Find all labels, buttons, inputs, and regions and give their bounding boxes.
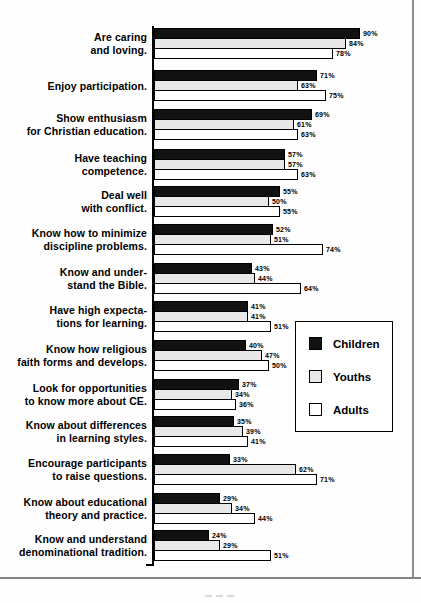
adults-swatch [309,403,322,416]
bar-value-label: 52% [276,226,291,233]
bar-row-adults: 44% [154,513,273,524]
bar-value-label: 29% [223,542,238,549]
bar-value-label: 61% [297,121,312,128]
bar-value-label: 36% [239,401,254,408]
category-label: Enjoy participation. [0,79,147,92]
axis-bottom-tick [146,564,154,566]
bar-group: Are caringand loving.90%84%78% [0,28,410,59]
bar-value-label: 29% [223,495,238,502]
category-label: Look for opportunitiesto know more about… [0,382,147,408]
bar-adults [154,513,255,524]
bar-value-label: 37% [242,381,257,388]
bar-group: Show enthusiasmfor Christian education.6… [0,109,410,140]
legend-label-youths: Youths [333,371,371,383]
bar-adults [154,436,248,447]
category-label: Have high expecta-tions for learning. [0,304,147,330]
bar-value-label: 34% [235,505,250,512]
bar-value-label: 34% [235,391,250,398]
bar-adults [154,550,271,561]
children-swatch [309,337,322,350]
page-edge-bottom [0,577,421,579]
legend-entry-adults: Adults [309,403,392,416]
bar-value-label: 63% [301,171,316,178]
bar-row-adults: 51% [154,550,289,561]
category-label: Deal wellwith conflict. [0,189,147,215]
bar-row-adults: 50% [154,360,287,371]
bar-value-label: 90% [363,30,378,37]
scanned-page: Are caringand loving.90%84%78%Enjoy part… [0,0,421,603]
bar-value-label: 63% [301,82,316,89]
category-label: Know about differencesin learning styles… [0,419,147,445]
bar-row-adults: 74% [154,244,341,255]
bar-group: Know and understanddenominational tradit… [0,530,410,561]
bar-value-label: 50% [272,198,287,205]
bar-group: Know and under-stand the Bible.43%44%64% [0,263,410,294]
youths-swatch [309,370,322,383]
category-label: Know and under-stand the Bible. [0,266,147,292]
bar-adults [154,244,323,255]
bar-value-label: 62% [299,466,314,473]
bar-group: Deal wellwith conflict.55%50%55% [0,186,410,217]
bar-row-adults: 71% [154,474,335,485]
bar-adults [154,90,326,101]
bar-value-label: 50% [272,362,287,369]
category-label: Know about educationaltheory and practic… [0,496,147,522]
bar-adults [154,474,317,485]
bar-value-label: 71% [320,476,335,483]
bar-value-label: 51% [274,236,289,243]
bar-row-adults: 51% [154,321,289,332]
bar-value-label: 41% [251,313,266,320]
category-label: Encourage participantsto raise questions… [0,457,147,483]
bar-value-label: 24% [212,532,227,539]
bar-value-label: 41% [251,303,266,310]
bar-row-adults: 55% [154,206,298,217]
bar-value-label: 64% [304,285,319,292]
bar-value-label: 57% [288,151,303,158]
bar-adults [154,48,333,59]
bar-value-label: 71% [320,72,335,79]
bar-value-label: 40% [249,342,264,349]
bar-group: Know how to minimizediscipline problems.… [0,224,410,255]
bar-value-label: 35% [237,418,252,425]
bar-row-adults: 78% [154,48,351,59]
page-number-smudge [205,595,234,597]
bar-row-adults: 41% [154,436,266,447]
bar-value-label: 63% [301,131,316,138]
bar-value-label: 84% [349,40,364,47]
category-label: Have teachingcompetence. [0,152,147,178]
page-edge-right [412,0,414,578]
bar-value-label: 74% [326,246,341,253]
bar-value-label: 75% [329,92,344,99]
legend-label-adults: Adults [333,404,369,416]
legend-entry-youths: Youths [309,370,392,383]
bar-row-adults: 63% [154,129,316,140]
category-label: Know how to minimizediscipline problems. [0,227,147,253]
bar-row-adults: 63% [154,169,316,180]
bar-value-label: 69% [315,111,330,118]
bar-adults [154,206,280,217]
bar-value-label: 55% [283,188,298,195]
bar-adults [154,360,269,371]
bar-value-label: 51% [274,323,289,330]
bar-adults [154,129,298,140]
category-label: Are caringand loving. [0,31,147,57]
bar-value-label: 33% [233,456,248,463]
bar-value-label: 55% [283,208,298,215]
bar-group: Know about educationaltheory and practic… [0,493,410,524]
bar-value-label: 57% [288,161,303,168]
bar-value-label: 41% [251,438,266,445]
bar-row-adults: 75% [154,90,344,101]
bar-value-label: 39% [246,428,261,435]
bar-value-label: 47% [265,352,280,359]
bar-adults [154,169,298,180]
bar-value-label: 43% [255,265,270,272]
bar-group: Enjoy participation.71%63%75% [0,70,410,101]
bar-row-adults: 36% [154,399,254,410]
bar-value-label: 78% [336,50,351,57]
category-label: Know how religiousfaith forms and develo… [0,343,147,369]
bar-adults [154,321,271,332]
bar-value-label: 44% [258,275,273,282]
category-label: Know and understanddenominational tradit… [0,533,147,559]
y-axis-line [152,26,154,566]
bar-group: Encourage participantsto raise questions… [0,454,410,485]
